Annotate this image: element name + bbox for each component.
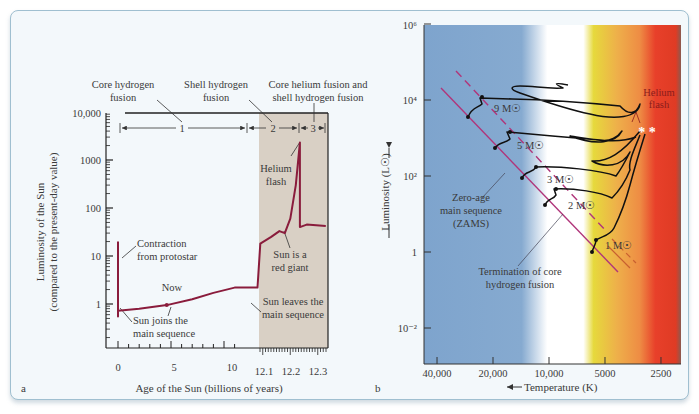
annotation: main sequence — [262, 309, 324, 320]
track-point — [466, 115, 470, 119]
y-tick-label: 10⁶ — [403, 20, 418, 31]
x-tick-label: 2500 — [651, 368, 672, 379]
chart-a: 10,000 1000 100 10 1 0 5 10 12.1 12.2 12… — [21, 79, 368, 395]
panel-label-b: b — [375, 382, 381, 394]
annotation: Sun joins the — [133, 315, 188, 326]
annotation: Helium — [260, 163, 292, 174]
y-axis-title-b: Luminosity (L☉) — [379, 153, 392, 231]
x-tick-label: 0 — [115, 362, 120, 373]
x-tick-label: 5000 — [595, 368, 616, 379]
y-tick-label: 10,000 — [72, 108, 101, 119]
y-tick-label: 10⁻² — [398, 323, 417, 334]
y-ticks-a — [106, 114, 113, 337]
annotation: Sun leaves the — [263, 296, 324, 307]
track-point — [493, 146, 497, 150]
annotation: Zero-age — [452, 192, 490, 203]
track-point — [508, 130, 512, 134]
annotation: Core helium fusion and — [269, 79, 369, 90]
track-label: 1 M☉ — [605, 240, 632, 251]
annotation: main sequence — [133, 328, 195, 339]
x-tick-label: 12.1 — [255, 366, 273, 377]
phase-label-3: 3 — [310, 123, 315, 134]
x-tick-label: 10,000 — [535, 368, 564, 379]
y-axis-subtitle-a: (compared to the present-day value) — [47, 152, 60, 311]
y-axis-title-a: Luminosity of the Sun — [34, 182, 46, 281]
phase-label-1: 1 — [179, 123, 184, 134]
annotation: fusion — [110, 92, 137, 103]
x-tick-label: 12.2 — [282, 366, 300, 377]
track-point — [520, 176, 524, 180]
annotation: flash — [649, 99, 670, 110]
x-tick-label: 12.3 — [309, 366, 327, 377]
y-tick-label: 1 — [412, 247, 417, 258]
figure-svg: 10,000 1000 100 10 1 0 5 10 12.1 12.2 12… — [0, 0, 699, 414]
annotation: shell hydrogen fusion — [273, 92, 365, 103]
track-label: 9 M☉ — [494, 103, 521, 114]
track-point — [543, 203, 547, 207]
annotation: Termination of core — [478, 266, 562, 277]
x-tick-label: 10 — [227, 362, 238, 373]
annotation: (ZAMS) — [453, 218, 490, 230]
annotation: Helium — [643, 87, 675, 98]
y-tick-label: 10⁴ — [403, 95, 418, 106]
track-label: 3 M☉ — [547, 174, 574, 185]
track-point — [480, 95, 484, 99]
annotation: Sun is a — [273, 249, 307, 260]
chart-b: 10⁶ 10⁴ 10² 1 10⁻² 40,000 20,000 10,000 … — [375, 20, 681, 394]
y-tick-label: 10 — [91, 251, 102, 262]
track-point — [534, 165, 538, 169]
x-axis-title-b: Temperature (K) — [524, 381, 598, 394]
track-label: 2 M☉ — [568, 200, 595, 211]
annotation: from protostar — [137, 251, 198, 262]
y-tick-label: 10² — [403, 171, 417, 182]
annotation: Shell hydrogen — [184, 79, 249, 90]
annotation: Core hydrogen — [92, 79, 155, 90]
x-axis-title-a: Age of the Sun (billions of years) — [135, 382, 283, 395]
track-point — [590, 250, 594, 254]
annotation: flash — [266, 176, 287, 187]
track-label: 5 M☉ — [517, 140, 544, 151]
phase-label-2: 2 — [270, 123, 275, 134]
annotation: red giant — [271, 262, 308, 273]
y-tick-label: 1000 — [80, 155, 101, 166]
x-tick-label: 20,000 — [479, 368, 508, 379]
x-tick-label: 5 — [171, 362, 176, 373]
now-marker — [165, 303, 169, 307]
track-point — [594, 238, 598, 242]
y-tick-label: 1 — [96, 299, 101, 310]
annotation: Contraction — [137, 238, 187, 249]
annotation: Now — [162, 282, 183, 293]
panel-label-a: a — [21, 382, 26, 394]
x-tick-label: 40,000 — [423, 368, 452, 379]
y-tick-label: 100 — [85, 203, 101, 214]
track-point — [554, 187, 558, 191]
annotation: hydrogen fusion — [486, 279, 555, 290]
annotation: fusion — [203, 92, 230, 103]
helium-flash-stars: * * — [638, 125, 656, 140]
annotation: main sequence — [440, 205, 502, 216]
